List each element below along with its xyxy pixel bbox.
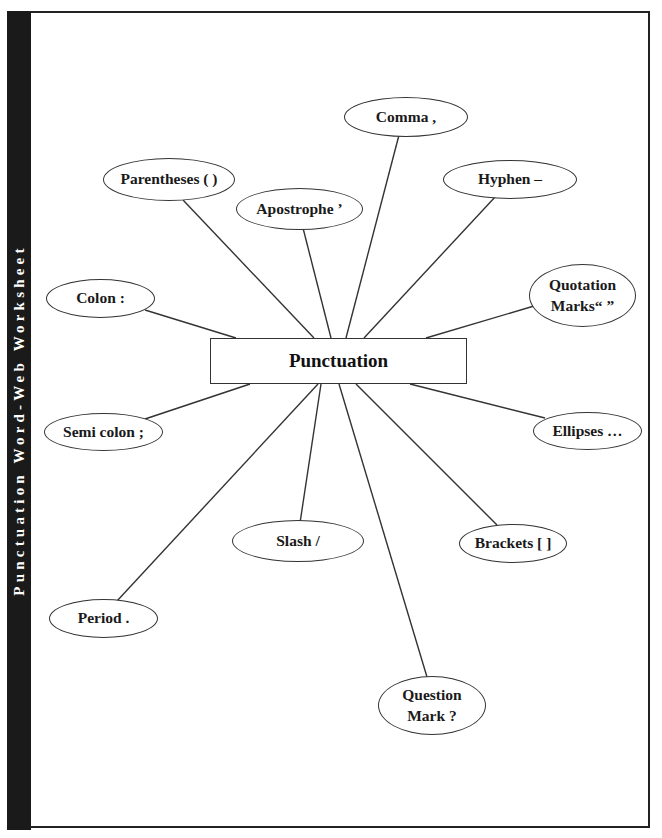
connector-slash <box>300 384 321 523</box>
center-topic-box: Punctuation <box>210 338 467 384</box>
connector-brackets <box>356 384 497 525</box>
connector-quotation <box>426 306 534 338</box>
connector-apostrophe <box>303 228 331 338</box>
node-colon: Colon : <box>46 279 155 318</box>
node-ellipses: Ellipses … <box>533 412 642 450</box>
node-parentheses: Parentheses ( ) <box>103 158 235 201</box>
node-label: Parentheses ( ) <box>121 169 218 189</box>
node-label: Apostrophe ’ <box>256 199 342 219</box>
node-slash: Slash / <box>232 520 364 562</box>
connector-semicolon <box>145 384 250 419</box>
node-label: Slash / <box>276 531 320 551</box>
node-comma: Comma , <box>344 97 468 137</box>
connector-colon <box>145 310 236 338</box>
connector-hyphen <box>364 196 496 338</box>
node-label: Hyphen – <box>478 169 542 189</box>
node-question-mark: QuestionMark ? <box>378 676 486 735</box>
node-apostrophe: Apostrophe ’ <box>236 188 363 230</box>
node-label: Ellipses … <box>552 421 622 441</box>
node-hyphen: Hyphen – <box>443 160 577 199</box>
connector-comma <box>346 135 399 338</box>
node-label: Brackets [ ] <box>475 533 552 553</box>
node-label: Period . <box>78 608 130 628</box>
node-label: Colon : <box>76 288 125 308</box>
node-semicolon: Semi colon ; <box>44 413 163 451</box>
connector-ellipses <box>410 384 545 418</box>
node-label: Semi colon ; <box>63 422 144 442</box>
connector-period <box>117 384 318 601</box>
node-period: Period . <box>49 599 158 638</box>
node-brackets: Brackets [ ] <box>459 524 567 563</box>
node-label: QuestionMark ? <box>402 685 461 725</box>
node-quotation-marks: QuotationMarks“ ” <box>529 264 636 327</box>
node-label: Comma , <box>376 107 436 127</box>
node-label: QuotationMarks“ ” <box>549 275 616 315</box>
